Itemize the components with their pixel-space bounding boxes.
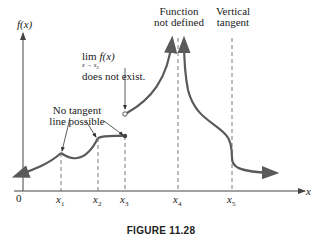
- vertical-tangent-annotation: Vertical tangent: [212, 6, 254, 28]
- tick-label-x1: x1: [56, 194, 64, 210]
- x-axis-label: x: [306, 186, 311, 197]
- function-not-defined-annotation: Function not defined: [151, 6, 207, 28]
- open-point-x3: [123, 112, 127, 116]
- tick-label-x4: x4: [173, 194, 181, 210]
- tick-label-x5: x5: [227, 194, 235, 210]
- no-tangent-annotation: No tangent line possible: [47, 105, 107, 127]
- tick-label-x2: x2: [93, 194, 101, 210]
- tick-label-x3: x3: [120, 194, 128, 210]
- origin-label: 0: [16, 193, 22, 204]
- limit-annotation: lim f(x) x → x3 does not exist.: [82, 51, 145, 82]
- filled-point-x3: [123, 134, 127, 138]
- figure-caption: FIGURE 11.28: [0, 225, 322, 236]
- y-axis-label: f(x): [17, 19, 32, 30]
